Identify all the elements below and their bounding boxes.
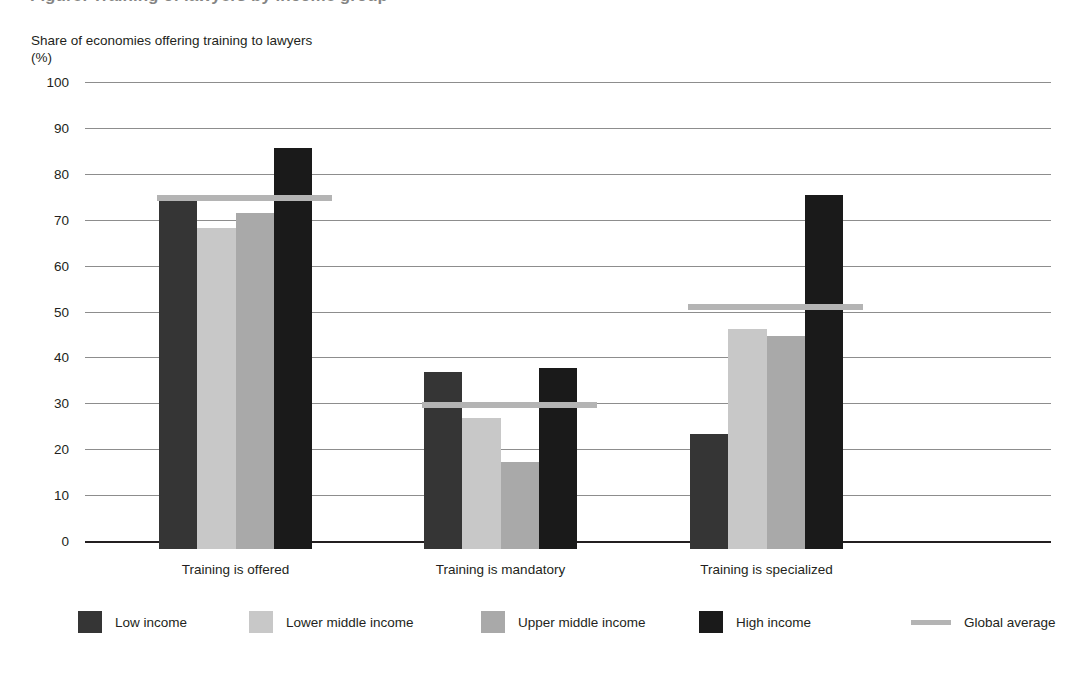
bar[interactable] xyxy=(274,148,312,549)
category-axis-labels: Training is offeredTraining is mandatory… xyxy=(54,560,1020,582)
bar[interactable] xyxy=(539,368,577,549)
legend-square-swatch-icon xyxy=(699,611,723,633)
gridline xyxy=(85,82,1051,83)
legend-item-label: Upper middle income xyxy=(518,615,646,630)
bar-group-3 xyxy=(690,90,843,549)
bar[interactable] xyxy=(424,372,462,549)
legend-line-marker-icon xyxy=(911,620,951,625)
y-axis-caption: Share of economies offering training to … xyxy=(31,33,511,66)
chart-legend: Low incomeLower middle incomeUpper middl… xyxy=(31,606,1051,640)
bar[interactable] xyxy=(236,213,274,549)
legend-square-swatch-icon xyxy=(481,611,505,633)
bar-group-1 xyxy=(159,90,312,549)
bar[interactable] xyxy=(462,418,500,549)
y-axis-caption-line-1: Share of economies offering training to … xyxy=(31,33,511,50)
gridline-row-100: 100 xyxy=(31,74,1051,91)
bar[interactable] xyxy=(159,198,197,549)
legend-item-low-income[interactable]: Low income xyxy=(78,606,187,638)
category-label-2: Training is mandatory xyxy=(379,560,622,580)
bar[interactable] xyxy=(197,228,235,549)
global-average-line xyxy=(688,304,863,310)
legend-item-label: Global average xyxy=(964,615,1056,630)
y-axis-tick-label: 100 xyxy=(31,74,69,91)
bar[interactable] xyxy=(501,462,539,549)
bar[interactable] xyxy=(767,336,805,549)
legend-item-label: Low income xyxy=(115,615,187,630)
legend-item-lower-middle-income[interactable]: Lower middle income xyxy=(249,606,414,638)
cut-off-figure-title: Figure: Training of lawyers by income gr… xyxy=(0,0,1083,16)
bar[interactable] xyxy=(805,195,843,549)
legend-item-label: High income xyxy=(736,615,811,630)
bar-group-2 xyxy=(424,90,577,549)
global-average-line xyxy=(157,195,332,201)
bar[interactable] xyxy=(728,329,766,549)
legend-square-swatch-icon xyxy=(249,611,273,633)
bars-layer xyxy=(54,90,1020,549)
category-label-3: Training is specialized xyxy=(645,560,888,580)
legend-square-swatch-icon xyxy=(78,611,102,633)
global-average-line xyxy=(422,402,597,408)
legend-item-upper-middle-income[interactable]: Upper middle income xyxy=(481,606,646,638)
legend-item-high-income[interactable]: High income xyxy=(699,606,811,638)
category-label-1: Training is offered xyxy=(114,560,357,580)
legend-item-global-average[interactable]: Global average xyxy=(911,606,1056,638)
y-axis-caption-line-2: (%) xyxy=(31,50,511,67)
legend-item-label: Lower middle income xyxy=(286,615,414,630)
cut-off-figure-title-text: Figure: Training of lawyers by income gr… xyxy=(30,0,388,6)
bar[interactable] xyxy=(690,434,728,549)
